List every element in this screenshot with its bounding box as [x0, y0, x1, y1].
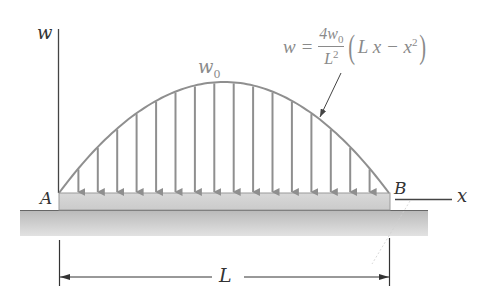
formula-close-paren: ) [420, 30, 427, 64]
ground [20, 210, 428, 236]
w-axis-label: w [37, 24, 52, 42]
x-axis-label: x [457, 187, 467, 205]
peak-load-label: w0 [198, 58, 220, 80]
load-arrows [78, 83, 369, 192]
load-curve [59, 82, 389, 193]
beam-diagram: w w0 A B x L w = 4w0 L2 ( L x − x2 ) [0, 0, 483, 296]
formula-term: L x − x2 [358, 36, 418, 58]
peak-load-symbol: w [198, 56, 213, 77]
formula-leader-arrow [320, 73, 341, 117]
beam [59, 193, 390, 210]
formula-fraction: 4w0 L2 [318, 25, 344, 69]
formula-denominator: L2 [324, 47, 338, 68]
span-length-label: L [219, 266, 232, 285]
support-a-label: A [40, 190, 52, 207]
peak-load-subscript: 0 [213, 68, 220, 81]
formula-open-paren: ( [349, 30, 356, 64]
formula-numerator: 4w0 [318, 25, 344, 47]
support-b-label: B [394, 180, 407, 197]
load-formula: w = 4w0 L2 ( L x − x2 ) [283, 22, 429, 72]
formula-lhs: w = [283, 36, 313, 58]
